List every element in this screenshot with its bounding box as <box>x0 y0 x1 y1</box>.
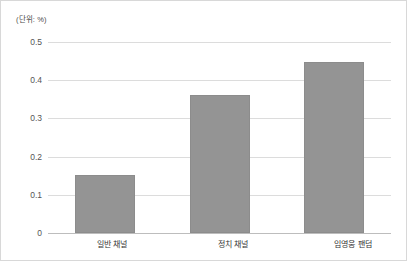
y-axis-tick-label: 0.4 <box>30 75 42 85</box>
unit-note-label: (단위: %) <box>16 13 47 24</box>
bar <box>75 175 135 233</box>
y-axis-tick-label: 0 <box>37 228 42 238</box>
bar <box>304 62 364 233</box>
x-axis-tick-label: 정치 채널 <box>218 238 248 249</box>
bar <box>190 95 250 233</box>
y-axis-tick-label: 0.2 <box>30 152 42 162</box>
x-axis-baseline <box>48 233 391 234</box>
bar-chart-figure: (단위: %) 0.5 0.4 0.3 0.2 0.1 0 일반 채널 정치 채… <box>0 0 407 261</box>
y-axis-tick-label: 0.5 <box>30 37 42 47</box>
y-axis-tick-label: 0.3 <box>30 113 42 123</box>
y-axis-tick-labels: 0.5 0.4 0.3 0.2 0.1 0 <box>1 42 42 233</box>
gridline <box>48 42 391 43</box>
y-axis-tick-label: 0.1 <box>30 190 42 200</box>
x-axis-tick-label: 임영웅 팬덤 <box>334 238 371 249</box>
x-axis-tick-label: 일반 채널 <box>97 238 127 249</box>
plot-area <box>48 42 391 233</box>
